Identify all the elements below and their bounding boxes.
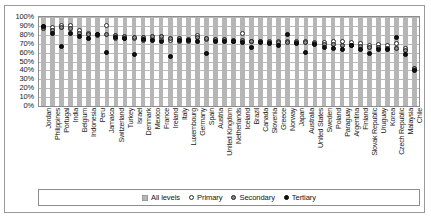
point-tertiary	[122, 36, 127, 41]
point-tertiary	[385, 47, 390, 52]
x-axis-tick-label: Argentina	[353, 108, 360, 137]
point-tertiary	[340, 47, 345, 52]
y-axis-tick-label: 20%	[20, 83, 34, 92]
point-tertiary	[267, 41, 272, 46]
x-axis-tick-label: Ireland	[172, 108, 179, 128]
point-tertiary	[349, 43, 354, 48]
x-axis-tick-label: Uruguay	[380, 108, 387, 133]
point-tertiary	[312, 42, 317, 47]
y-axis-tick-label: 0%	[24, 101, 34, 110]
x-axis-tick-label: Canada	[262, 108, 269, 132]
x-axis-tick-label: Czech Republic	[398, 108, 405, 155]
x-axis-tick-label: Denmark	[145, 108, 152, 135]
point-tertiary	[168, 54, 173, 59]
legend-label: Tertiary	[292, 193, 316, 202]
x-axis-tick-label: Australia	[308, 108, 315, 134]
x-axis-tick-label: Philippines	[54, 108, 61, 140]
x-axis-tick-label: Germany	[199, 108, 206, 136]
x-axis-tick-label: Turkey	[127, 108, 134, 128]
y-axis-tick-label: 90%	[20, 20, 34, 29]
point-tertiary	[204, 51, 209, 56]
point-tertiary	[186, 38, 191, 43]
x-axis-tick-label: Italy	[181, 108, 188, 120]
point-secondary	[303, 40, 308, 45]
x-axis-tick-label: Netherlands	[235, 108, 242, 144]
point-secondary	[204, 36, 209, 41]
legend-label: All levels	[151, 193, 180, 202]
legend-item: Secondary	[231, 193, 274, 202]
point-secondary	[394, 46, 399, 51]
x-axis-tick-label: Luxembourg	[190, 108, 197, 145]
y-axis-tick-label: 80%	[20, 29, 34, 38]
point-secondary	[367, 45, 372, 50]
point-tertiary	[249, 45, 254, 50]
point-secondary	[285, 40, 290, 45]
point-tertiary	[294, 41, 299, 46]
point-tertiary	[104, 50, 109, 55]
x-axis-tick-label: Jamaica	[108, 108, 115, 133]
x-axis-tick-label: Belgium	[81, 108, 88, 132]
point-tertiary	[68, 31, 73, 36]
point-tertiary	[376, 47, 381, 52]
legend-item: All levels	[142, 193, 180, 202]
y-axis-tick-label: 40%	[20, 65, 34, 74]
point-tertiary	[195, 39, 200, 44]
points-layer	[39, 17, 419, 106]
chart-legend: All levelsPrimarySecondaryTertiary	[38, 189, 420, 206]
point-secondary	[104, 32, 109, 37]
point-tertiary	[303, 50, 308, 55]
y-axis-tick-label: 50%	[20, 56, 34, 65]
point-secondary	[132, 35, 137, 40]
x-axis-tick-label: Switzerland	[118, 108, 125, 142]
y-axis-tick-label: 60%	[20, 47, 34, 56]
legend-bar-swatch-icon	[142, 195, 148, 201]
x-axis-tick-label: France	[163, 108, 170, 129]
point-tertiary	[222, 39, 227, 44]
x-axis: JordanPhilippinesPortugalIndiaBelgiumInd…	[38, 108, 420, 184]
x-axis-tick-label: India	[72, 108, 79, 122]
point-tertiary	[322, 45, 327, 50]
x-axis-tick-label: Iceland	[244, 108, 251, 129]
y-axis-tick-label: 100%	[16, 12, 34, 21]
legend-label: Secondary	[239, 193, 274, 202]
x-axis-tick-label: Slovenia	[271, 108, 278, 134]
x-axis-tick-label: Brazil	[253, 108, 260, 124]
point-tertiary	[77, 34, 82, 39]
x-axis-tick-label: Sweden	[326, 108, 333, 132]
point-tertiary	[86, 36, 91, 41]
x-axis-tick-label: Poland	[335, 108, 342, 129]
y-axis-tick-label: 70%	[20, 38, 34, 47]
point-tertiary	[258, 40, 263, 45]
plot-area	[38, 16, 420, 107]
point-tertiary	[213, 39, 218, 44]
x-axis-tick-label: Austria	[217, 108, 224, 129]
legend-item: Primary	[189, 193, 222, 202]
x-axis-tick-label: Japan	[298, 108, 305, 126]
point-tertiary	[276, 43, 281, 48]
x-axis-tick-label: Portugal	[63, 108, 70, 133]
x-axis-tick-label: Indonesia	[90, 108, 97, 137]
chart-figure: 100%90%80%70%60%50%40%30%20%10%0% Jordan…	[0, 0, 431, 219]
legend-label: Primary	[197, 193, 222, 202]
point-tertiary	[59, 44, 64, 49]
legend-secondary-dot-icon	[231, 195, 236, 200]
x-axis-tick-label: Korea	[389, 108, 396, 126]
x-axis-tick-label: Mexico	[154, 108, 161, 129]
y-axis-tick-label: 30%	[20, 74, 34, 83]
point-tertiary	[150, 38, 155, 43]
x-axis-tick-label: Chile	[416, 108, 423, 123]
y-axis-tick-label: 10%	[20, 92, 34, 101]
point-secondary	[68, 26, 73, 31]
point-tertiary	[50, 31, 55, 36]
x-axis-tick-label: Slovak Republic	[371, 108, 378, 156]
legend-primary-dot-icon	[189, 195, 194, 200]
x-axis-tick-label: Paraguay	[344, 108, 351, 137]
x-axis-tick-label: Norway	[289, 108, 296, 131]
legend-tertiary-dot-icon	[284, 195, 289, 200]
x-axis-tick-label: Peru	[99, 108, 106, 122]
point-primary	[104, 23, 109, 28]
x-axis-tick-label: Finland	[362, 108, 369, 130]
point-tertiary	[177, 38, 182, 43]
point-tertiary	[132, 52, 137, 57]
x-axis-tick-label: Jordan	[45, 108, 52, 128]
